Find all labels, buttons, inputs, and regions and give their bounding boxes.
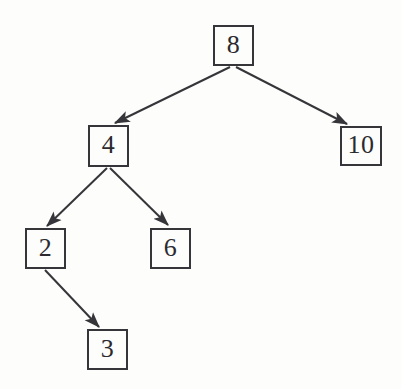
edge-8-to-4	[115, 67, 230, 123]
edge-group	[45, 67, 347, 327]
tree-node-label: 4	[102, 132, 116, 158]
tree-node-2[interactable]: 2	[25, 228, 66, 269]
tree-node-label: 2	[39, 235, 53, 261]
tree-node-label: 3	[101, 336, 115, 362]
tree-edges-layer	[0, 0, 401, 389]
edge-2-to-3	[45, 270, 99, 327]
tree-node-8[interactable]: 8	[213, 25, 254, 66]
tree-node-3[interactable]: 3	[87, 329, 128, 370]
tree-node-10[interactable]: 10	[340, 126, 382, 166]
tree-node-4[interactable]: 4	[88, 125, 129, 167]
edge-4-to-6	[110, 168, 168, 225]
edge-8-to-10	[236, 67, 347, 124]
tree-node-label: 8	[227, 32, 241, 58]
tree-node-label: 10	[348, 132, 375, 158]
binary-tree-diagram: 8 4 10 2 6 3	[0, 0, 401, 389]
edge-4-to-2	[47, 168, 107, 226]
tree-node-6[interactable]: 6	[150, 228, 191, 269]
tree-node-label: 6	[164, 235, 178, 261]
